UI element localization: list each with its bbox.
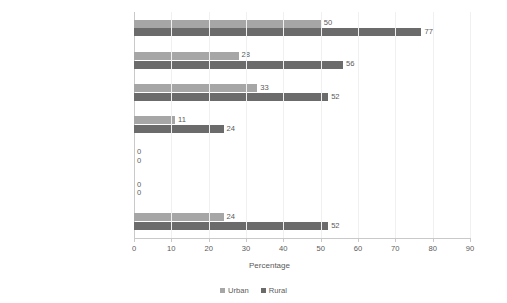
- x-tick-mark: [246, 239, 247, 242]
- bar-value-label: 0: [137, 157, 141, 165]
- plot-area: Africa5077Middle East2856Asia and Pacifi…: [134, 12, 470, 238]
- bar-rural: [134, 93, 328, 101]
- x-tick-label: 30: [242, 244, 250, 253]
- x-tick-label: 40: [279, 244, 287, 253]
- bar-urban: [134, 213, 224, 221]
- bar-value-label: 0: [137, 181, 141, 189]
- legend-item-rural[interactable]: Rural: [261, 286, 287, 295]
- x-tick-mark: [395, 239, 396, 242]
- chart-category-row: Europe00: [134, 141, 470, 173]
- gridline: [470, 12, 471, 238]
- gridline: [358, 12, 359, 238]
- bar-value-label: 77: [424, 28, 432, 36]
- bar-value-label: 50: [324, 19, 332, 27]
- bar-rural: [134, 222, 328, 230]
- x-tick-label: 20: [204, 244, 212, 253]
- x-tick-mark: [358, 239, 359, 242]
- x-tick-label: 50: [316, 244, 324, 253]
- bar-rural: [134, 28, 421, 36]
- bar-value-label: 24: [227, 125, 235, 133]
- gridline: [171, 12, 172, 238]
- x-tick-mark: [134, 239, 135, 242]
- bar-value-label: 0: [137, 148, 141, 156]
- legend-item-urban[interactable]: Urban: [220, 286, 249, 295]
- x-tick-mark: [171, 239, 172, 242]
- legend-swatch-urban: [220, 288, 225, 293]
- gridline: [209, 12, 210, 238]
- x-axis-title-text: Percentage: [249, 261, 290, 270]
- legend-label: Urban: [228, 286, 249, 295]
- gridline: [433, 12, 434, 238]
- bar-value-label: 33: [260, 84, 268, 92]
- chart-category-row: Latin America and Carribean1124: [134, 109, 470, 141]
- x-tick-label: 60: [354, 244, 362, 253]
- gridline: [321, 12, 322, 238]
- x-tick-label: 80: [428, 244, 436, 253]
- x-tick-mark: [433, 239, 434, 242]
- gridline: [283, 12, 284, 238]
- x-axis-title: Percentage: [0, 261, 507, 270]
- chart-category-row: Africa5077: [134, 12, 470, 44]
- bar-rural: [134, 61, 343, 69]
- bar-urban: [134, 52, 239, 60]
- bar-value-label: 52: [331, 222, 339, 230]
- x-axis-line: [134, 238, 471, 239]
- chart-category-row: World2452: [134, 206, 470, 238]
- gridline: [246, 12, 247, 238]
- x-tick-label: 0: [132, 244, 136, 253]
- bar-rural: [134, 125, 224, 133]
- x-tick-mark: [209, 239, 210, 242]
- x-tick-label: 70: [391, 244, 399, 253]
- bar-value-label: 24: [227, 213, 235, 221]
- bar-urban: [134, 84, 257, 92]
- bar-value-label: 56: [346, 60, 354, 68]
- bar-urban: [134, 116, 175, 124]
- bar-value-label: 11: [178, 116, 186, 124]
- bar-value-label: 52: [331, 93, 339, 101]
- chart-category-row: North America00: [134, 173, 470, 205]
- x-tick-mark: [283, 239, 284, 242]
- x-tick-label: 10: [167, 244, 175, 253]
- x-tick-mark: [321, 239, 322, 242]
- legend-label: Rural: [269, 286, 287, 295]
- x-tick-mark: [470, 239, 471, 242]
- gridline: [395, 12, 396, 238]
- chart-category-row: Asia and Pacific3352: [134, 77, 470, 109]
- bar-value-label: 0: [137, 189, 141, 197]
- bar-chart: Africa5077Middle East2856Asia and Pacifi…: [0, 0, 507, 303]
- bar-urban: [134, 20, 321, 28]
- chart-category-row: Middle East2856: [134, 44, 470, 76]
- chart-legend: UrbanRural: [0, 286, 507, 295]
- x-tick-label: 90: [466, 244, 474, 253]
- legend-swatch-rural: [261, 288, 266, 293]
